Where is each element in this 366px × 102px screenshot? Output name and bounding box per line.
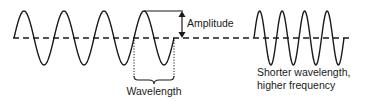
amplitude-label: Amplitude: [187, 17, 234, 30]
shorter-wavelength-line2: higher frequency: [257, 79, 350, 92]
amplitude-arrow-icon: [179, 11, 186, 38]
shorter-wavelength-label: Shorter wavelength, higher frequency: [257, 66, 350, 92]
shorter-wavelength-line1: Shorter wavelength,: [257, 66, 350, 79]
wavelength-label: Wavelength: [125, 85, 183, 98]
wavelength-brace-icon: [134, 76, 174, 84]
